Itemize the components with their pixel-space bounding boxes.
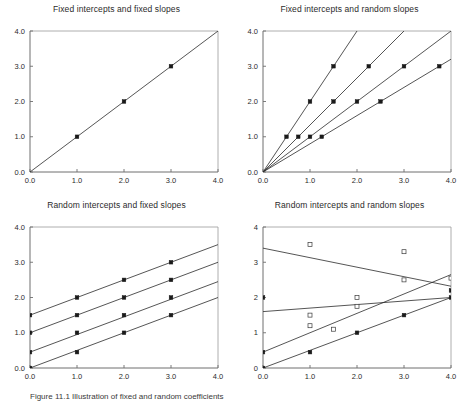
svg-text:1.0: 1.0 (305, 372, 315, 381)
chart-panel-bottom-right: Random intercepts and random slopes 0123… (233, 196, 466, 392)
svg-text:2.0: 2.0 (15, 97, 25, 106)
svg-text:3.0: 3.0 (166, 372, 176, 381)
svg-text:1.0: 1.0 (248, 132, 258, 141)
figure-caption: Figure 11.1 Illustration of fixed and ra… (30, 392, 450, 406)
svg-text:2.0: 2.0 (119, 176, 129, 185)
svg-text:2.0: 2.0 (15, 293, 25, 302)
svg-text:3.0: 3.0 (399, 176, 409, 185)
svg-text:4.0: 4.0 (15, 27, 25, 36)
svg-text:2.0: 2.0 (119, 372, 129, 381)
svg-text:1.0: 1.0 (15, 132, 25, 141)
plot-area-bottom-left: 0.01.02.03.04.00.01.02.03.04.0 (0, 196, 233, 392)
svg-text:4.0: 4.0 (15, 223, 25, 232)
svg-text:1.0: 1.0 (15, 328, 25, 337)
plot-area-bottom-right: 012340.01.02.03.04.0 (233, 196, 466, 392)
svg-text:4.0: 4.0 (248, 27, 258, 36)
svg-text:0.0: 0.0 (15, 364, 25, 373)
svg-text:3.0: 3.0 (15, 62, 25, 71)
svg-text:3.0: 3.0 (248, 62, 258, 71)
svg-text:1.0: 1.0 (72, 176, 82, 185)
svg-text:3.0: 3.0 (15, 258, 25, 267)
figure-container: Fixed intercepts and fixed slopes 0.01.0… (0, 0, 467, 406)
svg-text:3.0: 3.0 (399, 372, 409, 381)
svg-text:3: 3 (254, 258, 258, 267)
svg-text:4.0: 4.0 (446, 176, 456, 185)
svg-text:0.0: 0.0 (25, 372, 35, 381)
svg-text:2: 2 (254, 293, 258, 302)
svg-text:0.0: 0.0 (258, 176, 268, 185)
svg-text:2.0: 2.0 (352, 176, 362, 185)
svg-text:4.0: 4.0 (213, 176, 223, 185)
svg-text:1.0: 1.0 (305, 176, 315, 185)
plot-area-top-right: 0.01.02.03.04.00.01.02.03.04.0 (233, 0, 466, 196)
svg-text:4.0: 4.0 (446, 372, 456, 381)
plot-area-top-left: 0.01.02.03.04.00.01.02.03.04.0 (0, 0, 233, 196)
svg-text:1.0: 1.0 (72, 372, 82, 381)
svg-text:0.0: 0.0 (248, 168, 258, 177)
svg-text:2.0: 2.0 (248, 97, 258, 106)
chart-panel-bottom-left: Random intercepts and fixed slopes 0.01.… (0, 196, 233, 392)
svg-text:0.0: 0.0 (258, 372, 268, 381)
svg-text:0.0: 0.0 (15, 168, 25, 177)
svg-text:3.0: 3.0 (166, 176, 176, 185)
svg-text:0.0: 0.0 (25, 176, 35, 185)
svg-text:4: 4 (254, 223, 258, 232)
chart-panel-top-right: Fixed intercepts and random slopes 0.01.… (233, 0, 466, 196)
chart-panel-top-left: Fixed intercepts and fixed slopes 0.01.0… (0, 0, 233, 196)
svg-text:2.0: 2.0 (352, 372, 362, 381)
svg-text:4.0: 4.0 (213, 372, 223, 381)
svg-text:1: 1 (254, 328, 258, 337)
